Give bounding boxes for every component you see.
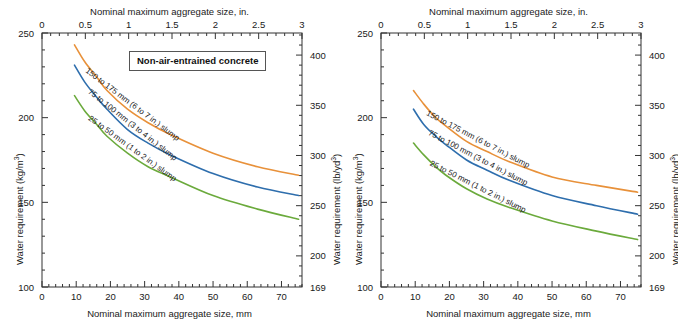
xtick-label-in: 1.5: [504, 19, 517, 30]
xtick-label-in: 1: [465, 19, 470, 30]
xtick-label-in: 0: [378, 19, 383, 30]
curve-label-text: 150 to 175 mm (6 to 7 in.) slump: [84, 66, 182, 143]
curve-2: [414, 143, 638, 240]
ytick-label-lb: 300: [649, 150, 665, 161]
ytick-label-kg: 100: [18, 282, 34, 293]
xtick-label-mm: 20: [444, 291, 455, 302]
xtick-label-mm: 50: [208, 291, 219, 302]
ytick-label-kg: 250: [18, 28, 34, 39]
xtick-label-mm: 40: [513, 291, 524, 302]
xtick-label-in: 2.5: [591, 19, 604, 30]
xtick-label-mm: 0: [378, 291, 383, 302]
xtick-label-mm: 30: [478, 291, 489, 302]
xtick-label-in: 1: [126, 19, 131, 30]
xtick-label-mm: 10: [71, 291, 82, 302]
ytick-label-lb: 250: [310, 200, 326, 211]
panel-air-entrained: Nominal maximum aggregate size, in. Nomi…: [339, 0, 678, 327]
plot-area-right: 01020304050607000.511.522.53100150200250…: [339, 0, 678, 327]
xtick-label-mm: 60: [242, 291, 253, 302]
xtick-label-mm: 30: [139, 291, 150, 302]
curve-label-0: 150 to 175 mm (6 to 7 in.) slump: [84, 66, 182, 143]
ytick-label-lb: 400: [649, 50, 665, 61]
figure-water-requirement: Nominal maximum aggregate size, in. Nomi…: [0, 0, 678, 327]
ytick-label-kg: 250: [357, 28, 373, 39]
plot-area-left: 01020304050607000.511.522.53100150200250…: [0, 0, 339, 327]
curve-label-2: 25 to 50 mm (1 to 2 in.) slump: [428, 159, 528, 215]
xtick-label-mm: 70: [615, 291, 626, 302]
xtick-label-mm: 40: [174, 291, 185, 302]
xtick-label-in: 2: [213, 19, 218, 30]
xtick-label-in: 0.5: [79, 19, 92, 30]
xtick-label-in: 2.5: [252, 19, 265, 30]
ytick-label-kg: 100: [357, 282, 373, 293]
ytick-label-kg: 150: [18, 197, 34, 208]
xtick-label-in: 1.5: [165, 19, 178, 30]
curve-label-text: 25 to 50 mm (1 to 2 in.) slump: [428, 159, 528, 215]
curve-2: [75, 96, 299, 220]
xtick-label-mm: 60: [581, 291, 592, 302]
ytick-label-lb-bottom: 169: [649, 282, 665, 293]
ytick-label-lb: 350: [649, 100, 665, 111]
xtick-label-in: 3: [299, 19, 304, 30]
xtick-label-in: 2: [552, 19, 557, 30]
panel-non-air-entrained: Nominal maximum aggregate size, in. Nomi…: [0, 0, 339, 327]
ytick-label-lb: 200: [649, 250, 665, 261]
xtick-label-in: 0: [39, 19, 44, 30]
xtick-label-in: 0.5: [418, 19, 431, 30]
ytick-label-lb: 400: [310, 50, 326, 61]
ytick-label-kg: 150: [357, 197, 373, 208]
ytick-label-lb: 200: [310, 250, 326, 261]
panel-title-box-left: Non-air-entrained concrete: [129, 51, 266, 71]
xtick-label-mm: 50: [547, 291, 558, 302]
ytick-label-lb: 350: [310, 100, 326, 111]
xtick-label-mm: 0: [39, 291, 44, 302]
xtick-label-mm: 10: [410, 291, 421, 302]
ytick-label-kg: 200: [18, 112, 34, 123]
xtick-label-mm: 70: [276, 291, 287, 302]
xtick-label-mm: 20: [105, 291, 116, 302]
xtick-label-in: 3: [638, 19, 643, 30]
ytick-label-lb: 250: [649, 200, 665, 211]
ytick-label-kg: 200: [357, 112, 373, 123]
ytick-label-lb-bottom: 169: [310, 282, 326, 293]
ytick-label-lb: 300: [310, 150, 326, 161]
